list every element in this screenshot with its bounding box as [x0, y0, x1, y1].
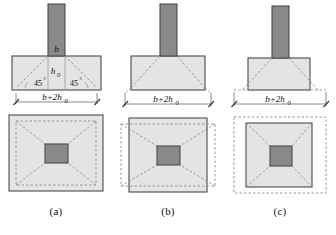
figure-panel-c: b+2h 0 (c)	[224, 0, 336, 235]
panel-b-drawing: b+2h 0	[112, 0, 224, 210]
dimension-label-b: b+2h	[153, 94, 173, 104]
panel-a-drawing: b h 0 45 ° 45 ° b+2h 0	[0, 0, 112, 210]
footing-elevation-c	[248, 58, 310, 90]
figure-footer-text	[0, 224, 336, 235]
punch-line-right-ext-b	[205, 88, 211, 93]
effective-depth-label-a: h	[51, 66, 56, 76]
dimension-label-sub-a: 0	[64, 97, 68, 104]
column-plan-a	[45, 144, 68, 163]
figure-panel-b: b+2h 0 (b)	[112, 0, 224, 235]
column-elevation-c	[272, 6, 289, 58]
angle-label-left-a: 45	[34, 79, 42, 88]
dimension-label-sub-c: 0	[287, 99, 291, 106]
footing-elevation-b	[131, 56, 205, 90]
column-plan-c	[270, 146, 292, 166]
dimension-label-sub-b: 0	[175, 99, 179, 106]
angle-label-right-a: 45	[70, 79, 78, 88]
punch-line-left-ext-b	[125, 88, 131, 93]
panel-c-drawing: b+2h 0	[224, 0, 336, 210]
panel-caption-a: (a)	[0, 205, 112, 217]
column-plan-b	[157, 146, 180, 165]
column-width-label-a: b	[54, 44, 59, 54]
column-elevation-b	[160, 4, 177, 56]
figure-panel-a: b h 0 45 ° 45 ° b+2h 0	[0, 0, 112, 235]
dimension-label-a: b+2h	[42, 92, 62, 102]
figure-root: b h 0 45 ° 45 ° b+2h 0	[0, 0, 336, 235]
dimension-label-c: b+2h	[265, 94, 285, 104]
panel-caption-c: (c)	[224, 205, 336, 217]
angle-label-right-sup-a: °	[80, 77, 82, 83]
angle-label-left-sup-a: °	[44, 77, 46, 83]
panel-caption-b: (b)	[112, 205, 224, 217]
